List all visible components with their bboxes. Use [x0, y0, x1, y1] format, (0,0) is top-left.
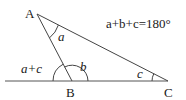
- equation-text: a+b+c=180°: [106, 16, 171, 31]
- angle-arc-exterior: [53, 64, 63, 81]
- angle-arc-c: [152, 74, 154, 81]
- side-ab: [37, 14, 72, 81]
- angle-label-exterior: a+c: [21, 61, 42, 76]
- angle-label-b: b: [80, 59, 87, 74]
- point-label-c: C: [164, 85, 173, 100]
- point-label-b: B: [66, 85, 75, 100]
- point-label-a: A: [25, 6, 35, 21]
- triangle-diagram: A B C a b c a+c a+b+c=180°: [0, 0, 186, 100]
- angle-label-c: c: [137, 66, 143, 81]
- angle-label-a: a: [58, 29, 65, 44]
